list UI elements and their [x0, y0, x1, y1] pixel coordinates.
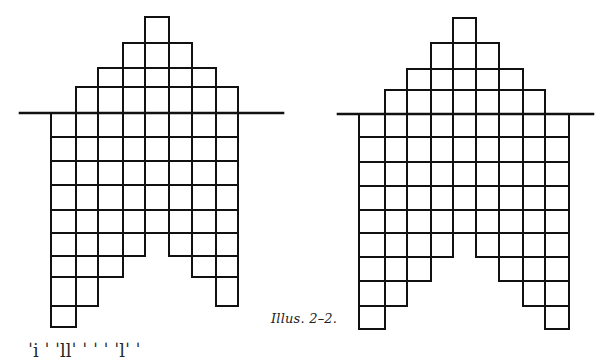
figure-caption: Illus. 2–2.	[271, 311, 337, 326]
cutoff-body-text: ˈi ˈ ˈllˈ ˈ ˈ ˈ ˈlˈ ˈ	[28, 340, 141, 361]
left-staircase-figure	[20, 17, 283, 327]
right-staircase-figure	[338, 18, 593, 329]
